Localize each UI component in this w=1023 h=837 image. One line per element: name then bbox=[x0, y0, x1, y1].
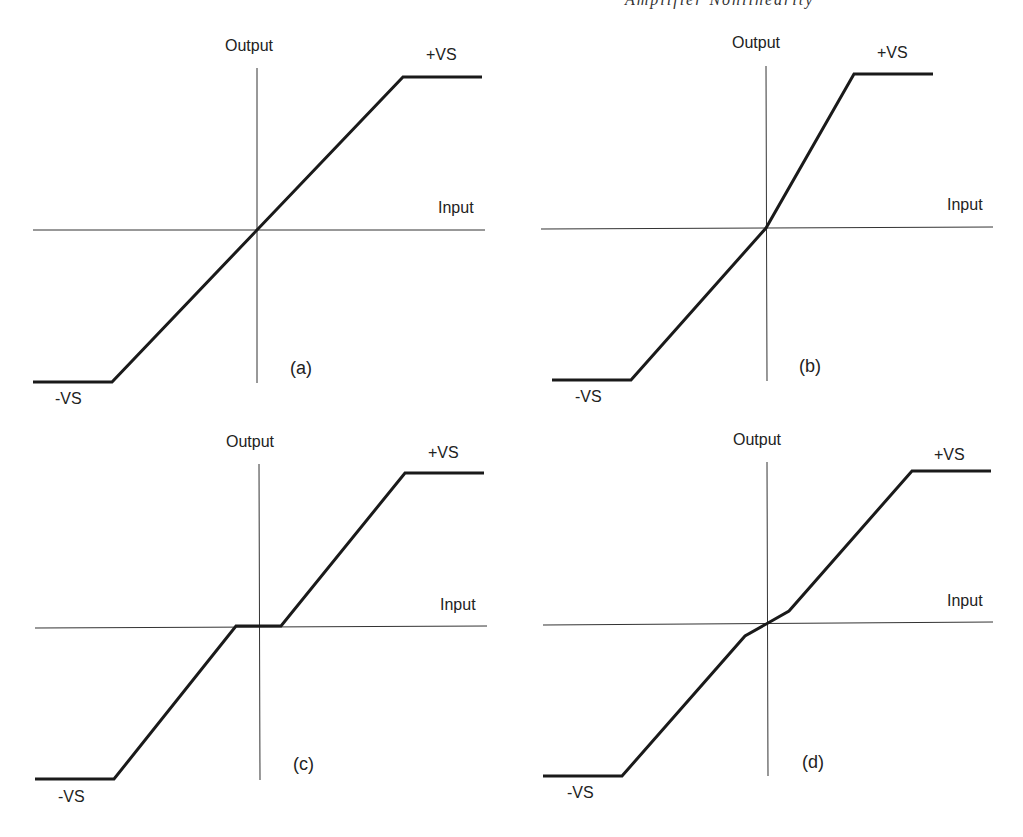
input-axis-label: Input bbox=[947, 592, 983, 609]
panel-tag: (c) bbox=[293, 754, 314, 774]
positive-saturation-label: +VS bbox=[428, 444, 459, 461]
positive-saturation-label: +VS bbox=[877, 44, 908, 61]
panel-tag: (a) bbox=[290, 358, 312, 378]
panel-tag: (d) bbox=[802, 752, 824, 772]
panel-a: OutputInput+VS-VS(a) bbox=[33, 37, 485, 407]
panel-b: OutputInput+VS-VS(b) bbox=[541, 34, 993, 405]
output-axis-label: Output bbox=[226, 433, 275, 450]
output-axis bbox=[259, 464, 260, 780]
panel-tag: (b) bbox=[799, 356, 821, 376]
output-axis-label: Output bbox=[225, 37, 274, 54]
positive-saturation-label: +VS bbox=[934, 446, 965, 463]
input-axis-label: Input bbox=[438, 199, 474, 216]
negative-saturation-label: -VS bbox=[58, 788, 85, 805]
positive-saturation-label: +VS bbox=[426, 46, 457, 63]
negative-saturation-label: -VS bbox=[575, 388, 602, 405]
input-axis-label: Input bbox=[947, 196, 983, 213]
input-axis-label: Input bbox=[440, 596, 476, 613]
panel-d: OutputInput+VS-VS(d) bbox=[543, 431, 993, 801]
negative-saturation-label: -VS bbox=[55, 390, 82, 407]
negative-saturation-label: -VS bbox=[567, 784, 594, 801]
output-axis-label: Output bbox=[733, 431, 782, 448]
panel-c: OutputInput+VS-VS(c) bbox=[35, 433, 487, 805]
output-axis-label: Output bbox=[732, 34, 781, 51]
output-axis bbox=[767, 462, 768, 776]
transfer-curve bbox=[552, 74, 933, 380]
transfer-characteristics-figure: OutputInput+VS-VS(a)OutputInput+VS-VS(b)… bbox=[0, 0, 1023, 837]
